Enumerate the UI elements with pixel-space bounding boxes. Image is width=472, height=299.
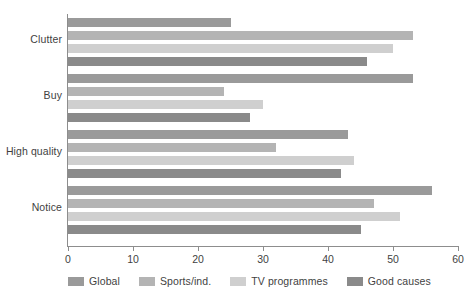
tick-label: 20	[192, 253, 204, 265]
tick-label: 10	[127, 253, 139, 265]
bar-group	[68, 70, 458, 126]
bar-row	[68, 225, 458, 234]
bar-group	[68, 126, 458, 182]
bar-row	[68, 130, 458, 139]
bar	[68, 130, 348, 139]
bar	[68, 18, 231, 27]
legend-label: TV programmes	[251, 275, 328, 287]
category-label-notice: Notice	[0, 201, 62, 213]
category-label-high-quality: High quality	[0, 145, 62, 157]
bar-group	[68, 14, 458, 70]
bar	[68, 31, 413, 40]
chart-legend: GlobalSports/ind.TV programmesGood cause…	[68, 275, 450, 287]
plot-area	[68, 14, 458, 246]
tick-mark	[198, 246, 199, 251]
tick-label: 50	[387, 253, 399, 265]
legend-swatch-icon	[139, 277, 155, 286]
bar-row	[68, 18, 458, 27]
bar-row	[68, 57, 458, 66]
bar-row	[68, 143, 458, 152]
bar	[68, 87, 224, 96]
legend-item[interactable]: Good causes	[347, 275, 431, 287]
legend-item[interactable]: Sports/ind.	[139, 275, 211, 287]
tick-mark	[458, 246, 459, 251]
bar	[68, 100, 263, 109]
bar	[68, 169, 341, 178]
tick-label: 40	[322, 253, 334, 265]
bar	[68, 186, 432, 195]
bar-row	[68, 212, 458, 221]
bar-group	[68, 182, 458, 238]
bar-row	[68, 87, 458, 96]
tick-label: 60	[452, 253, 464, 265]
tick-mark	[393, 246, 394, 251]
legend-item[interactable]: Global	[68, 275, 120, 287]
legend-swatch-icon	[68, 277, 84, 286]
legend-label: Global	[89, 275, 120, 287]
tick-mark	[328, 246, 329, 251]
tick-label: 30	[257, 253, 269, 265]
tick-mark	[68, 246, 69, 251]
legend-item[interactable]: TV programmes	[230, 275, 328, 287]
category-label-clutter: Clutter	[0, 33, 62, 45]
legend-label: Good causes	[368, 275, 431, 287]
bar-row	[68, 44, 458, 53]
bar-row	[68, 100, 458, 109]
bar-row	[68, 169, 458, 178]
bar-row	[68, 113, 458, 122]
category-label-buy: Buy	[0, 89, 62, 101]
bar	[68, 44, 393, 53]
legend-swatch-icon	[230, 277, 246, 286]
bar	[68, 74, 413, 83]
bar-row	[68, 156, 458, 165]
bar	[68, 199, 374, 208]
tick-label: 0	[65, 253, 71, 265]
bar-row	[68, 31, 458, 40]
bar-chart: ClutterBuyHigh qualityNotice 01020304050…	[0, 0, 472, 299]
legend-swatch-icon	[347, 277, 363, 286]
legend-label: Sports/ind.	[160, 275, 211, 287]
bar	[68, 57, 367, 66]
tick-mark	[263, 246, 264, 251]
bar	[68, 212, 400, 221]
bar	[68, 225, 361, 234]
bar	[68, 143, 276, 152]
bar-row	[68, 199, 458, 208]
bar	[68, 156, 354, 165]
bar-row	[68, 186, 458, 195]
bar-row	[68, 74, 458, 83]
tick-mark	[133, 246, 134, 251]
bar	[68, 113, 250, 122]
